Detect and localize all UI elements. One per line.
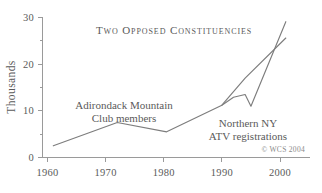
chart-title: Two Opposed Constituencies xyxy=(96,24,252,36)
y-tick-label-10: 10 xyxy=(23,105,34,116)
annotation-amc-label: Adirondack Mountain Club members xyxy=(75,99,173,124)
line-chart: 0 10 20 30 1960 1970 1980 1990 2000 Thou… xyxy=(0,0,322,193)
x-tick-label-2000: 2000 xyxy=(269,167,291,178)
atv-label-line-1: Northern NY xyxy=(219,117,277,129)
x-tick-label-1960: 1960 xyxy=(36,167,58,178)
amc-label-line-1: Adirondack Mountain xyxy=(75,99,173,111)
x-tick-label-1990: 1990 xyxy=(211,167,233,178)
atv-label-line-2: ATV registrations xyxy=(209,130,287,142)
x-axis-ticks xyxy=(48,158,281,163)
y-tick-label-30: 30 xyxy=(23,12,34,23)
y-axis-title: Thousands xyxy=(5,60,17,114)
y-tick-label-0: 0 xyxy=(28,152,34,163)
annotation-atv-label: Northern NY ATV registrations xyxy=(209,117,287,142)
y-tick-label-20: 20 xyxy=(23,59,34,70)
copyright-credit: © WCS 2004 xyxy=(261,145,305,154)
x-tick-label-1970: 1970 xyxy=(94,167,116,178)
chart-figure: 0 10 20 30 1960 1970 1980 1990 2000 Thou… xyxy=(0,0,322,193)
amc-label-line-2: Club members xyxy=(92,112,156,124)
x-tick-label-1980: 1980 xyxy=(153,167,175,178)
